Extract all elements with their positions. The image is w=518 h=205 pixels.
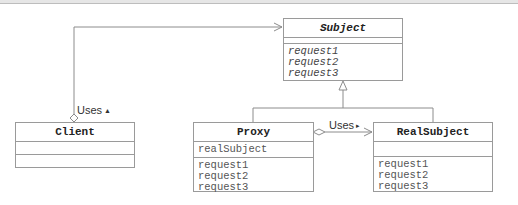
operations-section: request1 request2 request3 xyxy=(374,157,492,194)
class-subject[interactable]: Subject request1 request2 request3 xyxy=(283,18,403,81)
generalization-connector xyxy=(253,81,433,122)
direction-up-icon: ▲ xyxy=(104,107,111,114)
class-proxy[interactable]: Proxy realSubject request1 request2 requ… xyxy=(193,122,314,192)
operation: request3 xyxy=(198,182,309,193)
attribute: realSubject xyxy=(198,144,309,155)
proxy-uses-label: Uses▸ xyxy=(329,119,360,131)
uses-text: Uses xyxy=(329,119,354,131)
direction-right-icon: ▸ xyxy=(356,122,360,129)
class-name: Proxy xyxy=(194,123,313,142)
operations-section: request1 request2 request3 xyxy=(284,44,402,81)
attributes-section: realSubject xyxy=(194,142,313,158)
class-name: Subject xyxy=(284,19,402,38)
attributes-section xyxy=(374,142,492,157)
uses-text: Uses xyxy=(77,104,102,116)
class-realsubject[interactable]: RealSubject request1 request2 request3 xyxy=(373,122,493,192)
class-name: Client xyxy=(16,123,134,142)
attributes-section xyxy=(16,142,134,155)
operations-section: request1 request2 request3 xyxy=(194,158,313,195)
class-name: RealSubject xyxy=(374,123,492,142)
operation: request3 xyxy=(288,68,398,79)
operations-section xyxy=(16,155,134,168)
operation: request3 xyxy=(378,181,488,192)
class-client[interactable]: Client xyxy=(15,122,135,168)
client-uses-label: Uses▲ xyxy=(77,104,111,116)
